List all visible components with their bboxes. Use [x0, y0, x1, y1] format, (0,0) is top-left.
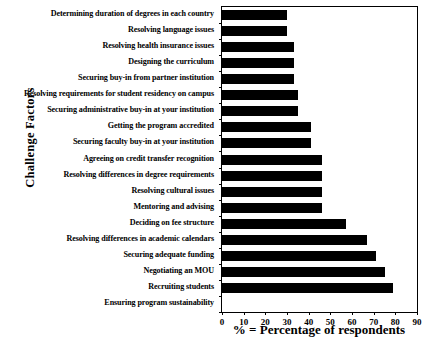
y-axis-tick [219, 135, 222, 136]
x-axis-tick [330, 312, 331, 315]
category-label: Determining duration of degrees in each … [51, 8, 214, 20]
category-label: Resolving differences in degree requirem… [63, 169, 214, 181]
x-axis-tick [287, 312, 288, 315]
bar [222, 42, 294, 52]
bar [222, 10, 287, 20]
category-label-column: Determining duration of degrees in each … [14, 6, 217, 311]
category-label: Resolving health insurance issues [102, 40, 214, 52]
bar [222, 122, 311, 132]
x-axis-tick [417, 312, 418, 315]
x-axis-tick [309, 312, 310, 315]
y-axis-tick [219, 151, 222, 152]
category-label: Getting the program accredited [108, 120, 214, 132]
category-label: Resolving language issues [128, 24, 214, 36]
category-label: Resolving requirements for student resid… [24, 88, 214, 100]
x-axis-tick [222, 312, 223, 315]
category-label: Resolving differences in academic calend… [66, 233, 214, 245]
category-label: Mentoring and advising [133, 201, 214, 213]
category-label: Securing adequate funding [123, 249, 214, 261]
category-label: Securing faculty buy-in at your institut… [73, 136, 214, 148]
plot-area: 0102030405060708090 [221, 6, 418, 313]
bar [222, 251, 376, 261]
bar [222, 58, 294, 68]
bar [222, 155, 322, 165]
category-label: Securing administrative buy-in at your i… [47, 104, 214, 116]
bar [222, 219, 346, 229]
bar [222, 235, 367, 245]
y-axis-tick [219, 296, 222, 297]
x-axis-tick [374, 312, 375, 315]
bar [222, 267, 385, 277]
y-axis-tick [219, 39, 222, 40]
category-label: Deciding on fee structure [130, 217, 214, 229]
y-axis-tick [219, 184, 222, 185]
y-axis-tick [219, 23, 222, 24]
x-axis-tick [265, 312, 266, 315]
y-axis-tick [219, 55, 222, 56]
bar-chart-figure: Challenge Factors Determining duration o… [0, 0, 424, 341]
y-axis-tick [219, 216, 222, 217]
category-label: Recruiting students [148, 281, 214, 293]
category-label: Securing buy-in from partner institution [78, 72, 214, 84]
x-axis-tick [244, 312, 245, 315]
y-axis-tick [219, 232, 222, 233]
y-axis-tick [219, 119, 222, 120]
y-axis-tick [219, 168, 222, 169]
y-axis-tick [219, 87, 222, 88]
bar [222, 106, 298, 116]
y-axis-tick [219, 103, 222, 104]
bar [222, 26, 287, 36]
bar [222, 90, 298, 100]
bar [222, 283, 393, 293]
category-label: Designing the curriculum [128, 56, 214, 68]
y-axis-tick [219, 248, 222, 249]
category-label: Negotiating an MOU [143, 265, 214, 277]
y-axis-tick [219, 200, 222, 201]
x-axis-tick [352, 312, 353, 315]
y-axis-tick [219, 264, 222, 265]
bar [222, 74, 294, 84]
x-axis-title: % = Percentage of respondents [221, 322, 417, 338]
bar [222, 203, 322, 213]
y-axis-tick [219, 71, 222, 72]
category-label: Ensuring program sustainability [104, 297, 214, 309]
x-axis-tick [395, 312, 396, 315]
bar [222, 187, 322, 197]
category-label: Agreeing on credit transfer recognition [83, 153, 214, 165]
bar [222, 171, 322, 181]
y-axis-tick [219, 280, 222, 281]
bar [222, 138, 311, 148]
category-label: Resolving cultural issues [132, 185, 215, 197]
